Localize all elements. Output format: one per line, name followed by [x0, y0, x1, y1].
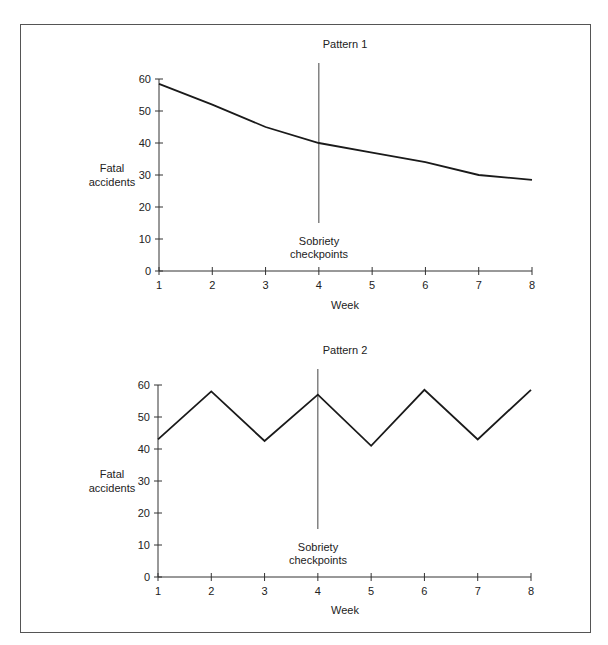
chart-pattern-1: Pattern 1 Fatal accidents Week Sobriety …: [89, 38, 535, 311]
y-tick-label: 0: [145, 265, 151, 277]
chart-title: Pattern 1: [323, 38, 368, 50]
data-line: [158, 390, 531, 446]
y-tick-label: 30: [138, 475, 150, 487]
x-tick-label: 8: [528, 585, 534, 597]
x-tick-label: 6: [421, 585, 427, 597]
y-tick-label: 60: [139, 73, 151, 85]
x-tick-label: 1: [156, 279, 162, 291]
y-tick-label: 20: [139, 201, 151, 213]
annotation-label-line1: Sobriety: [299, 235, 340, 247]
y-tick-label: 40: [138, 443, 150, 455]
x-tick-label: 5: [369, 279, 375, 291]
y-axis-label-line2: accidents: [89, 482, 136, 494]
x-tick-label: 3: [262, 585, 268, 597]
y-tick-label: 50: [138, 411, 150, 423]
annotation-label-line2: checkpoints: [290, 248, 349, 260]
chart-title: Pattern 2: [323, 344, 368, 356]
y-tick-label: 50: [139, 105, 151, 117]
x-tick-label: 3: [263, 279, 269, 291]
x-tick-label: 4: [315, 585, 321, 597]
y-tick-label: 0: [144, 571, 150, 583]
x-tick-label: 5: [368, 585, 374, 597]
x-axis-label: Week: [331, 604, 359, 616]
x-tick-label: 1: [155, 585, 161, 597]
y-tick-label: 10: [138, 539, 150, 551]
annotation-label-line2: checkpoints: [289, 554, 348, 566]
y-tick-label: 60: [138, 379, 150, 391]
y-axis-label-line1: Fatal: [100, 162, 124, 174]
y-axis-label-line2: accidents: [89, 176, 136, 188]
x-tick-label: 2: [208, 585, 214, 597]
x-tick-label: 7: [476, 279, 482, 291]
x-tick-label: 2: [209, 279, 215, 291]
y-tick-label: 20: [138, 507, 150, 519]
y-tick-label: 30: [139, 169, 151, 181]
x-tick-label: 6: [422, 279, 428, 291]
x-tick-label: 8: [529, 279, 535, 291]
y-axis-label-line1: Fatal: [100, 468, 124, 480]
x-tick-label: 4: [316, 279, 322, 291]
y-tick-label: 10: [139, 233, 151, 245]
data-line: [159, 84, 532, 180]
y-tick-label: 40: [139, 137, 151, 149]
chart-pattern-2: Pattern 2 Fatal accidents Week Sobriety …: [89, 344, 534, 616]
annotation-label-line1: Sobriety: [298, 541, 339, 553]
x-tick-label: 7: [475, 585, 481, 597]
x-axis-label: Week: [331, 299, 359, 311]
charts-canvas: Pattern 1 Fatal accidents Week Sobriety …: [0, 0, 608, 645]
